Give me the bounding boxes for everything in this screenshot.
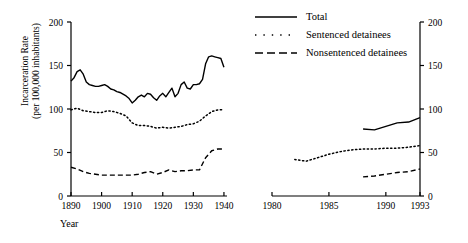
svg-text:1900: 1900 [92, 201, 111, 211]
series-line-dotted [71, 108, 224, 128]
tick-label-layer: 0501001502000501001502001890190019101920… [49, 18, 443, 212]
svg-text:1890: 1890 [62, 201, 81, 211]
svg-text:0: 0 [428, 192, 433, 202]
svg-text:1940: 1940 [214, 201, 233, 211]
plot-area: 0501001502000501001502001890190019101920… [0, 0, 468, 243]
svg-text:100: 100 [49, 105, 64, 115]
svg-text:1930: 1930 [184, 201, 203, 211]
svg-text:1990: 1990 [376, 201, 395, 211]
svg-text:1985: 1985 [319, 201, 338, 211]
chart-figure: Incarceration Rate (per 100,000 inhabita… [0, 0, 468, 243]
svg-text:0: 0 [58, 192, 63, 202]
series-line-solid [363, 118, 420, 130]
svg-text:50: 50 [428, 148, 438, 158]
svg-text:50: 50 [54, 148, 64, 158]
svg-text:150: 150 [428, 61, 443, 71]
axes-layer [67, 22, 424, 196]
svg-text:200: 200 [49, 18, 64, 28]
series-line-solid [71, 56, 224, 103]
svg-text:1993: 1993 [411, 201, 430, 211]
series-layer [71, 56, 420, 177]
svg-text:150: 150 [49, 61, 64, 71]
svg-text:1910: 1910 [123, 201, 142, 211]
svg-text:200: 200 [428, 18, 443, 28]
svg-text:1920: 1920 [153, 201, 172, 211]
series-line-dashed [71, 149, 224, 175]
series-line-dotted [295, 146, 420, 162]
series-line-dashed [363, 169, 420, 177]
svg-text:100: 100 [428, 105, 443, 115]
svg-text:1980: 1980 [263, 201, 282, 211]
